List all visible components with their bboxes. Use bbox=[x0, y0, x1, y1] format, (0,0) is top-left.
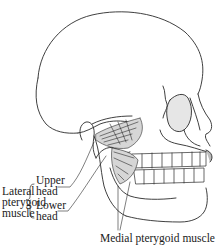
label-text: head bbox=[36, 186, 65, 197]
upper-teeth bbox=[132, 152, 206, 168]
label-upper-head: Upper head bbox=[36, 175, 65, 197]
cranium-outline bbox=[38, 12, 203, 94]
mandible-condyle bbox=[80, 122, 96, 158]
label-medial-pterygoid-muscle: Medial pterygoid muscle bbox=[100, 233, 215, 244]
label-lower-head: Lower head bbox=[36, 200, 66, 222]
orbit bbox=[167, 94, 192, 131]
leader-medial-2 bbox=[120, 182, 130, 230]
mandible bbox=[126, 188, 207, 222]
medial-pterygoid-muscle bbox=[111, 148, 138, 184]
lower-teeth bbox=[134, 168, 204, 184]
label-text: head bbox=[36, 211, 66, 222]
